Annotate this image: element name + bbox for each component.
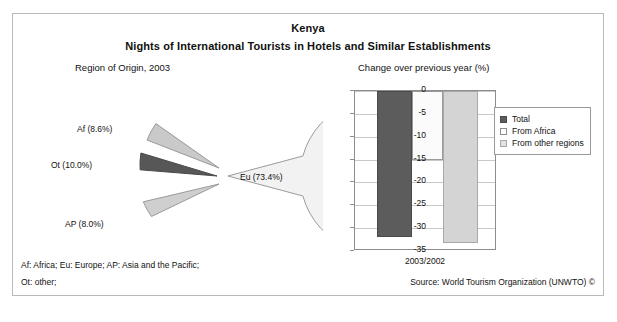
figure-panel: Kenya Nights of International Tourists i… xyxy=(12,13,604,296)
ytick-label--25: -25 xyxy=(386,198,426,208)
bar-chart-legend: Total From Africa From other regions xyxy=(494,107,591,155)
tickmark--20 xyxy=(350,181,354,182)
legend-swatch-from-other-regions-icon xyxy=(500,140,507,147)
pie-subtitle: Region of Origin, 2003 xyxy=(75,62,170,73)
tickmark--30 xyxy=(350,227,354,228)
legend-label-from-africa: From Africa xyxy=(512,126,555,136)
pie-label-af: Af (8.6%) xyxy=(77,124,112,134)
bar-chart: 0 -5 -10 -15 -20 -25 -30 -35 2003/2002 xyxy=(328,76,598,276)
legend-swatch-from-africa-icon xyxy=(500,128,507,135)
ytick-label--35: -35 xyxy=(386,244,426,254)
bar-from-other-regions xyxy=(443,91,478,243)
pie-chart: Eu (73.4%) Af (8.6%) Ot (10.0%) AP (8.0%… xyxy=(23,76,323,266)
pie-label-ot: Ot (10.0%) xyxy=(51,160,92,170)
ytick-label--5: -5 xyxy=(386,107,426,117)
pie-slice-ap xyxy=(143,184,219,217)
figure-title-main: Nights of International Tourists in Hote… xyxy=(13,40,603,52)
ytick-label-0: 0 xyxy=(386,84,426,94)
legend-item-from-africa: From Africa xyxy=(500,126,584,136)
source-attribution: Source: World Tourism Organization (UNWT… xyxy=(410,277,595,287)
legend-label-total: Total xyxy=(512,114,530,124)
tickmark--15 xyxy=(350,159,354,160)
figure-title-country: Kenya xyxy=(13,22,603,34)
tickmark-0 xyxy=(350,90,354,91)
pie-label-ap: AP (8.0%) xyxy=(65,219,104,229)
tickmark--25 xyxy=(350,204,354,205)
pie-slice-ot xyxy=(140,153,217,176)
bar-subtitle: Change over previous year (%) xyxy=(358,62,489,73)
footnote-abbreviations-line2: Ot: other; xyxy=(21,277,56,287)
legend-item-from-other-regions: From other regions xyxy=(500,138,584,148)
pie-chart-svg xyxy=(23,76,323,266)
pie-label-eu: Eu (73.4%) xyxy=(240,172,283,182)
legend-item-total: Total xyxy=(500,114,584,124)
ytick-label--20: -20 xyxy=(386,175,426,185)
footnote-abbreviations-line1: Af: Africa; Eu: Europe; AP: Asia and the… xyxy=(21,260,199,270)
ytick-label--30: -30 xyxy=(386,221,426,231)
legend-swatch-total-icon xyxy=(500,116,507,123)
tickmark--10 xyxy=(350,136,354,137)
xaxis-category-label: 2003/2002 xyxy=(354,256,496,266)
bar-from-africa xyxy=(412,91,443,160)
ytick-label--10: -10 xyxy=(386,130,426,140)
ytick-label--15: -15 xyxy=(386,153,426,163)
tickmark--5 xyxy=(350,113,354,114)
tickmark--35 xyxy=(350,250,354,251)
legend-label-from-other-regions: From other regions xyxy=(512,138,584,148)
